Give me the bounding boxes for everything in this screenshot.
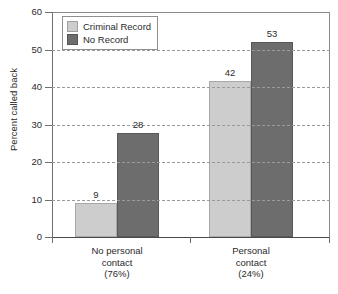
bar-value-label: 28 xyxy=(118,120,158,130)
gridline xyxy=(52,125,330,126)
bar xyxy=(209,81,251,237)
y-axis-tick xyxy=(45,200,52,201)
y-axis-tick xyxy=(45,162,52,163)
y-axis-tick-label: 50 xyxy=(2,45,42,55)
y-axis-tick-label: 20 xyxy=(2,157,42,167)
bar-value-label: 42 xyxy=(210,68,250,78)
x-axis-group-label-line: Personal xyxy=(191,245,311,257)
bar-value-label: 9 xyxy=(76,190,116,200)
legend-label-criminal-record: Criminal Record xyxy=(83,21,151,32)
x-axis-group-label-line: (24%) xyxy=(191,268,311,280)
x-axis-line xyxy=(52,237,330,238)
x-axis-group-label-line: (76%) xyxy=(57,268,177,280)
y-axis-tick xyxy=(45,50,52,51)
gridline xyxy=(52,162,330,163)
x-axis-tick xyxy=(52,237,53,243)
bar xyxy=(75,203,117,237)
y-axis-tick xyxy=(45,237,52,238)
x-axis-tick xyxy=(190,237,191,243)
x-axis-group-label: Personalcontact(24%) xyxy=(191,245,311,280)
gridline xyxy=(52,87,330,88)
x-axis-group-label-line: contact xyxy=(191,257,311,269)
x-axis-group-label-line: No personal xyxy=(57,245,177,257)
y-axis-tick-label: 60 xyxy=(2,7,42,17)
chart-legend: Criminal Record No Record xyxy=(62,16,158,50)
bar-value-label: 53 xyxy=(252,29,292,39)
x-axis-tick xyxy=(329,237,330,243)
bar xyxy=(117,133,159,237)
x-axis-group-label: No personalcontact(76%) xyxy=(57,245,177,280)
bar xyxy=(251,42,293,237)
x-axis-group-label-line: contact xyxy=(57,257,177,269)
y-axis-tick xyxy=(45,12,52,13)
y-axis-tick-label: 30 xyxy=(2,120,42,130)
legend-label-no-record: No Record xyxy=(83,34,128,45)
y-axis-tick xyxy=(45,87,52,88)
legend-item: Criminal Record xyxy=(67,20,151,33)
y-axis-tick-label: 0 xyxy=(2,232,42,242)
chart-figure: Percent called back 0102030405060 928425… xyxy=(0,0,338,294)
legend-swatch-no-record xyxy=(67,34,78,45)
y-axis-tick-label: 10 xyxy=(2,195,42,205)
legend-swatch-criminal-record xyxy=(67,21,78,32)
y-axis-tick xyxy=(45,125,52,126)
y-axis-tick-label: 40 xyxy=(2,82,42,92)
legend-item: No Record xyxy=(67,33,151,46)
